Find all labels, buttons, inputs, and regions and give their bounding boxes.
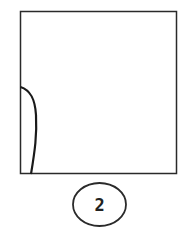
diagram: 2 [0, 0, 181, 227]
outer-square [21, 12, 177, 174]
figure-label: 2 [94, 195, 104, 215]
curve-line [21, 87, 37, 174]
